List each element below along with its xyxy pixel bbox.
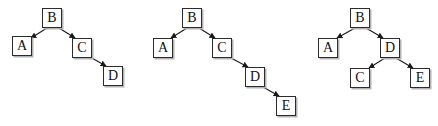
node-label: A	[323, 41, 333, 55]
node-label: D	[385, 41, 395, 55]
edge-b-to-a	[337, 28, 355, 38]
edge-d-to-e	[396, 58, 413, 68]
node-label: B	[355, 11, 364, 25]
tree-3-edges	[337, 28, 413, 68]
node-label: E	[416, 71, 425, 85]
node-d-tree-3: D	[380, 38, 400, 58]
node-b-tree-3: B	[350, 8, 370, 28]
edge-b-to-d	[366, 28, 383, 38]
tree-3-edge-layer	[0, 0, 438, 126]
edge-d-to-c	[369, 58, 385, 68]
node-a-tree-3: A	[318, 38, 338, 58]
node-c-tree-3: C	[350, 68, 370, 88]
node-label: C	[355, 71, 364, 85]
tree-diagram-3: B A D C E	[0, 0, 438, 126]
figure-canvas: B A C D B	[0, 0, 438, 126]
node-e-tree-3: E	[410, 68, 430, 88]
